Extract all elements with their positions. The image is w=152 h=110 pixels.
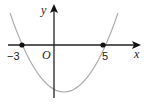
root-label-5: 5	[102, 50, 108, 62]
y-axis-label: y	[40, 3, 47, 17]
x-axis-label: x	[133, 47, 140, 61]
origin-label: O	[42, 48, 51, 62]
root-label-neg3: −3	[7, 50, 20, 62]
root-point-neg3	[19, 42, 24, 47]
root-point-5	[100, 42, 105, 47]
parabola-diagram: y x O −3 5	[0, 0, 152, 110]
